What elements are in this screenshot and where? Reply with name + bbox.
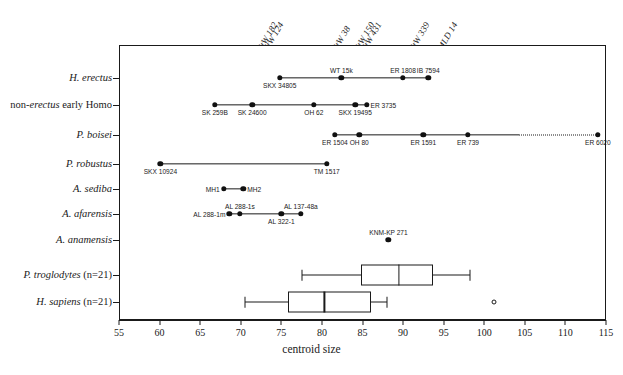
box-iqr — [361, 265, 433, 286]
data-point-label-er-1504: ER 1504 — [322, 139, 348, 146]
data-point-label-sk-259b: SK 259B — [202, 109, 228, 116]
data-point-label-sk-24600: SK 24600 — [238, 109, 267, 116]
data-point-label-skx-10924: SKX 10924 — [144, 168, 177, 175]
x-tick — [443, 320, 444, 325]
data-point-label-al-137-48a: AL 137-48a — [284, 203, 318, 210]
outlier-point — [491, 300, 496, 305]
x-tick — [240, 320, 241, 325]
data-point-label-al-288-1m: AL 288-1m — [193, 211, 225, 218]
x-tick — [524, 320, 525, 325]
data-point-label-er-3735: ER 3735 — [371, 102, 397, 109]
x-tick — [565, 320, 566, 325]
x-tick — [159, 320, 160, 325]
category-tick — [113, 189, 119, 190]
category-tick — [113, 78, 119, 79]
data-point-label-mh1: MH1 — [206, 186, 220, 193]
x-tick-label: 65 — [195, 327, 205, 338]
x-tick-label: 95 — [439, 327, 449, 338]
data-point-label-ib-7594: IB 7594 — [417, 67, 440, 74]
x-tick — [119, 320, 120, 325]
whisker-low — [302, 275, 361, 276]
category-label-p-robustus: P. robustus — [66, 159, 112, 170]
category-label-a-afarensis: A. afarensis — [62, 209, 112, 220]
cap-low — [244, 297, 245, 308]
data-point-label-knm-kp-271: KNM-KP 271 — [369, 229, 407, 236]
range-line — [280, 77, 429, 78]
data-point-label-wt-15k: WT 15k — [330, 67, 353, 74]
data-point-label-oh-80: OH 80 — [350, 139, 369, 146]
category-tick — [113, 135, 119, 136]
range-line — [160, 163, 326, 164]
whisker-high — [371, 302, 387, 303]
category-tick — [113, 302, 119, 303]
category-label-p-boisei: P. boisei — [77, 130, 112, 141]
category-label-a-sediba: A. sediba — [73, 184, 112, 195]
x-tick-label: 110 — [558, 327, 573, 338]
cap-high — [386, 297, 387, 308]
x-tick — [321, 320, 322, 325]
x-tick — [281, 320, 282, 325]
chart-canvas: StW 182StW 124StW 38StW 150StW 431StW 33… — [0, 0, 623, 375]
x-tick — [484, 320, 485, 325]
x-axis-title: centroid size — [0, 343, 623, 355]
x-tick-label: 80 — [317, 327, 327, 338]
data-point-label-er-1591: ER 1591 — [411, 139, 437, 146]
range-line — [335, 134, 519, 135]
category-label-a-anamensis: A. anamensis — [56, 235, 112, 246]
x-tick — [403, 320, 404, 325]
category-tick — [113, 164, 119, 165]
x-tick-label: 75 — [276, 327, 286, 338]
category-label-non-erectus-early-homo: non-erectus early Homo — [10, 100, 112, 111]
x-tick — [362, 320, 363, 325]
cap-low — [301, 270, 302, 281]
median-line — [398, 265, 399, 286]
data-point-label-al-322-1: AL 322-1 — [268, 218, 295, 225]
category-tick — [113, 105, 119, 106]
x-tick-label: 60 — [155, 327, 165, 338]
x-tick-label: 115 — [599, 327, 614, 338]
data-point-label-skx-34805: SKX 34805 — [263, 82, 296, 89]
box-iqr — [288, 292, 371, 313]
data-point-label-oh-62: OH 62 — [304, 109, 323, 116]
x-tick-label: 105 — [517, 327, 532, 338]
whisker-low — [245, 302, 288, 303]
cap-high — [470, 270, 471, 281]
category-label-h-sapiens-n-21-: H. sapiens (n=21) — [36, 297, 112, 308]
x-tick — [606, 320, 607, 325]
x-tick-label: 100 — [477, 327, 492, 338]
median-line — [324, 292, 325, 313]
category-tick — [113, 240, 119, 241]
whisker-high — [433, 275, 470, 276]
data-point-label-skx-19495: SKX 19495 — [339, 109, 372, 116]
category-tick — [113, 214, 119, 215]
category-label-p-troglodytes-n-21-: P. troglodytes (n=21) — [24, 270, 112, 281]
x-tick-label: 85 — [358, 327, 368, 338]
x-tick — [200, 320, 201, 325]
x-tick-label: 70 — [236, 327, 246, 338]
data-point-label-tm-1517: TM 1517 — [314, 168, 340, 175]
category-tick — [113, 275, 119, 276]
x-tick-label: 90 — [398, 327, 408, 338]
x-tick-label: 55 — [114, 327, 124, 338]
data-point-label-er-6020: ER 6020 — [585, 139, 611, 146]
category-label-h-erectus: H. erectus — [69, 73, 112, 84]
data-point-label-er-1808: ER 1808 — [390, 67, 416, 74]
data-point-label-mh2: MH2 — [247, 186, 261, 193]
data-point-label-al-288-1s: AL 288-1s — [225, 203, 255, 210]
range-line — [215, 104, 367, 105]
range-line-dotted — [519, 135, 598, 136]
data-point-label-er-739: ER 739 — [457, 139, 479, 146]
